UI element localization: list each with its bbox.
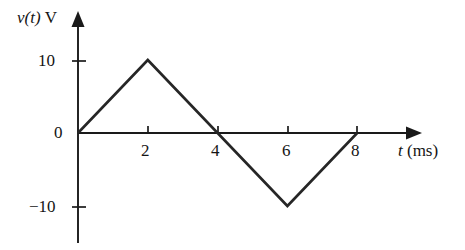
x-axis-arrowhead [406, 127, 422, 140]
y-axis-label: v(t) V [17, 9, 57, 26]
x-axis-label-unit: (ms) [407, 141, 438, 160]
y-tick-label-0: 0 [54, 124, 63, 141]
x-axis [78, 127, 422, 140]
x-axis-ticks [148, 126, 357, 133]
y-axis-label-unit: V [45, 8, 57, 27]
x-tick-label-2: 2 [141, 142, 150, 159]
x-axis-label: t (ms) [398, 142, 438, 159]
plot-canvas [0, 0, 465, 250]
y-tick-label-10: 10 [38, 52, 55, 69]
y-axis-label-variable: v(t) [17, 8, 41, 27]
x-tick-label-4: 4 [211, 142, 220, 159]
y-tick-label-neg10: −10 [29, 198, 56, 215]
x-tick-label-6: 6 [282, 142, 291, 159]
waveform-figure: v(t) V t (ms) 10 0 −10 2 4 6 8 [0, 0, 465, 250]
x-tick-label-8: 8 [351, 142, 360, 159]
y-axis-arrowhead [72, 11, 85, 27]
y-axis-ticks [72, 61, 86, 207]
